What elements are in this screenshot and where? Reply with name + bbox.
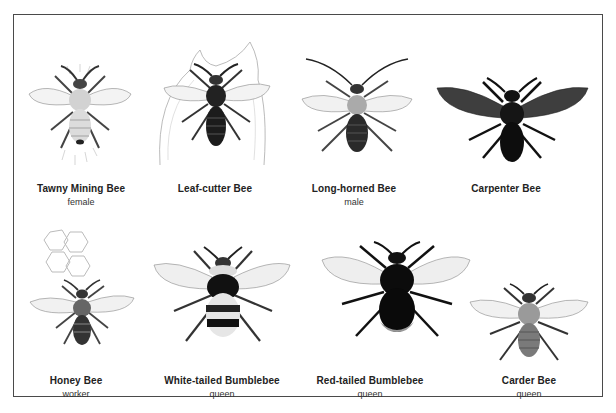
- carpenter-bee-illustration: [435, 68, 590, 168]
- caption-leaf-cutter-bee: Leaf-cutter Bee: [135, 183, 295, 196]
- caption-red-tailed-bumblebee: Red-tailed Bumblebee queen: [290, 375, 450, 400]
- bee-name: Red-tailed Bumblebee: [290, 375, 450, 387]
- bee-caste: male: [274, 196, 434, 208]
- bee-name: Carpenter Bee: [426, 183, 586, 195]
- red-tailed-bumblebee-illustration: [320, 238, 472, 343]
- bee-caste: worker: [0, 388, 156, 400]
- caption-carpenter-bee: Carpenter Bee: [426, 183, 586, 196]
- bee-caste: female: [1, 196, 161, 208]
- honeycomb-icon: [44, 230, 90, 276]
- long-horned-bee-illustration: [300, 55, 415, 165]
- caption-honey-bee: Honey Bee worker: [0, 375, 156, 400]
- bee-name: Leaf-cutter Bee: [135, 183, 295, 195]
- caption-carder-bee: Carder Bee queen: [449, 375, 609, 400]
- caption-white-tailed-bumblebee: White-tailed Bumblebee queen: [142, 375, 302, 400]
- bee-name: Long-horned Bee: [274, 183, 434, 195]
- bee-name: Honey Bee: [0, 375, 156, 387]
- white-tailed-bumblebee-illustration: [152, 243, 292, 348]
- bee-caste: queen: [142, 388, 302, 400]
- honey-bee-illustration: [28, 228, 138, 353]
- caption-long-horned-bee: Long-horned Bee male: [274, 183, 434, 208]
- leaf-cutter-bee-illustration: [150, 40, 280, 170]
- tawny-mining-bee-illustration: [25, 60, 135, 170]
- bee-name: Carder Bee: [449, 375, 609, 387]
- bee-caste: queen: [449, 388, 609, 400]
- bee-caste: queen: [290, 388, 450, 400]
- carder-bee-illustration: [468, 282, 590, 364]
- bee-name: White-tailed Bumblebee: [142, 375, 302, 387]
